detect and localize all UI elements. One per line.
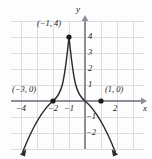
y-tick-label-4: 4: [88, 32, 92, 41]
parabola-plot: [0, 0, 152, 159]
point-vertex: [66, 34, 71, 39]
graph-figure: (−1, 4) (−3, 0) (1, 0) 4 3 2 1 −1 −2 −4 …: [0, 0, 152, 159]
y-axis-arrowhead: [82, 15, 89, 21]
y-axis-label: y: [76, 5, 80, 14]
y-tick-label-neg1: −1: [86, 112, 96, 121]
y-tick-label-neg2: −2: [86, 128, 96, 137]
x-tick-label-2: 2: [113, 104, 117, 113]
point-label-left-root: (−3, 0): [12, 85, 36, 94]
x-tick-label-neg1: −1: [64, 104, 74, 113]
y-tick-label-1: 1: [88, 80, 92, 89]
x-axis-label: x: [143, 104, 147, 113]
point-label-vertex: (−1, 4): [37, 19, 61, 28]
y-tick-label-2: 2: [88, 64, 92, 73]
x-tick-label-neg4: −4: [16, 104, 26, 113]
y-tick-label-3: 3: [88, 48, 92, 57]
x-tick-label-neg2: −2: [48, 104, 58, 113]
point-label-right-root: (1, 0): [105, 85, 123, 94]
point-right-root: [98, 98, 103, 103]
